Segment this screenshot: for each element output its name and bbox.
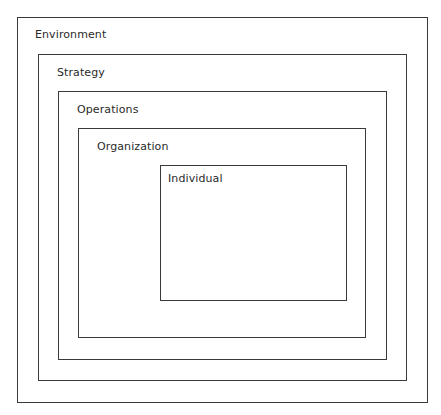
- individual-box: [160, 165, 347, 301]
- strategy-label: Strategy: [57, 66, 105, 79]
- organization-label: Organization: [97, 140, 169, 153]
- operations-label: Operations: [77, 103, 138, 116]
- individual-label: Individual: [168, 172, 223, 185]
- environment-label: Environment: [35, 28, 106, 41]
